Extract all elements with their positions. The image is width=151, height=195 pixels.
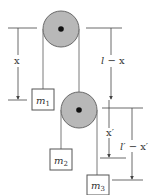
mass-m1: m1: [32, 89, 54, 110]
upper-pulley: [43, 11, 79, 47]
dimension-l-minus-x-label: l − x: [101, 55, 125, 66]
pulley-hub-icon: [76, 107, 82, 113]
lower-pulley: [61, 92, 97, 128]
dimension-l-prime-minus-x-prime-label: l′ − x′: [120, 141, 149, 152]
pulley-hub-icon: [58, 26, 64, 32]
mass-m2: m2: [50, 149, 72, 170]
dimension-x-prime-label: x′: [106, 127, 115, 138]
dimension-x-label: x: [14, 55, 20, 66]
mass-m3: m3: [87, 175, 109, 195]
pulley-diagram: m1 m2 m3 x l − x x′ l′ − x′: [0, 0, 151, 195]
